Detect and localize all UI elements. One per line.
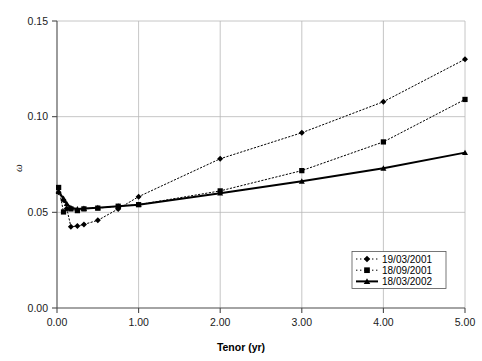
x-axis-tick-label: 3.00 <box>292 316 313 328</box>
y-axis-tick-label: 0.10 <box>28 110 49 122</box>
omega-vs-tenor-line-chart: 0.001.002.003.004.005.00 0.000.050.100.1… <box>0 0 482 361</box>
series-marker <box>299 168 304 173</box>
series-marker <box>68 224 74 230</box>
series-marker <box>381 139 386 144</box>
data-series-2 <box>56 97 468 215</box>
x-axis-tick-labels: 0.001.002.003.004.005.00 <box>47 316 476 328</box>
x-axis-tick-label: 2.00 <box>210 316 231 328</box>
series-marker <box>81 221 87 227</box>
legend-label: 18/03/2002 <box>382 276 432 287</box>
x-axis-title: Tenor (yr) <box>217 341 265 353</box>
series-line <box>59 59 465 226</box>
x-axis-tick-label: 0.00 <box>47 316 68 328</box>
y-axis-title: ω <box>12 164 24 172</box>
series-marker <box>95 217 101 223</box>
series-marker <box>462 97 467 102</box>
x-axis-tick-label: 4.00 <box>373 316 394 328</box>
y-axis-tick-label: 0.15 <box>28 15 49 27</box>
series-marker <box>217 156 223 162</box>
x-axis-tick-label: 5.00 <box>455 316 476 328</box>
legend-label: 19/03/2001 <box>382 254 432 265</box>
legend-marker-sample <box>364 267 370 273</box>
series-marker <box>136 194 142 200</box>
chart-container: 0.001.002.003.004.005.00 0.000.050.100.1… <box>0 0 482 361</box>
legend-label: 18/09/2001 <box>382 265 432 276</box>
series-marker <box>74 223 80 229</box>
y-axis-tick-label: 0.05 <box>28 206 49 218</box>
series-marker <box>380 99 386 105</box>
chart-legend: 19/03/200118/09/200118/03/2002 <box>352 252 446 289</box>
legend-entries: 19/03/200118/09/200118/03/2002 <box>356 254 432 287</box>
series-marker <box>299 130 305 136</box>
series-marker <box>61 209 66 214</box>
series-marker <box>462 56 468 62</box>
x-axis-tick-label: 1.00 <box>128 316 149 328</box>
y-axis-tick-label: 0.00 <box>28 302 49 314</box>
data-series-layer <box>56 56 468 229</box>
y-axis-tick-labels: 0.000.050.100.15 <box>28 15 49 314</box>
